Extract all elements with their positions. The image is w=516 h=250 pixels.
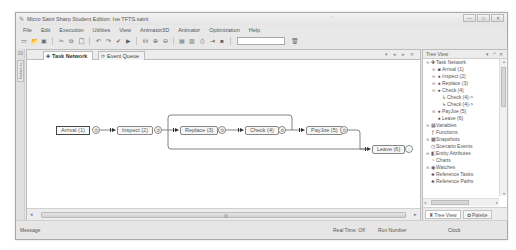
tree-item-label: Watches: [436, 164, 455, 170]
tree-item-payjoe[interactable]: ⊞●PayJoe (5): [423, 108, 499, 115]
pin-icon[interactable]: ⊡: [16, 49, 24, 57]
layout-icon[interactable]: ▥: [188, 37, 196, 45]
trash-icon[interactable]: 🗑: [291, 37, 299, 45]
tab-label: Task Network: [52, 53, 87, 59]
tree-item-reference-tasks[interactable]: ♣Reference Tasks: [423, 171, 499, 178]
tree-item-label: Snapshots: [436, 136, 460, 142]
tree-horizontal-scrollbar[interactable]: ◂ ▸: [423, 198, 499, 206]
grid-icon[interactable]: ▤: [178, 37, 186, 45]
maximize-button[interactable]: □: [477, 14, 490, 22]
canvas-horizontal-scrollbar[interactable]: ◂ ▥ ▸: [27, 208, 420, 220]
new-icon[interactable]: ▭: [20, 37, 28, 45]
tree-view-title: Tree View: [426, 51, 448, 57]
tree-item-label: Task Network: [436, 59, 466, 65]
close-button[interactable]: ✕: [491, 14, 504, 22]
minimize-button[interactable]: —: [463, 14, 476, 22]
tab-event-queue[interactable]: ⟳ Event Queue: [98, 51, 145, 60]
tree-item-charts[interactable]: ◔Charts: [423, 157, 499, 164]
tree-item-replace[interactable]: ⊞●Replace (3): [423, 80, 499, 87]
tree-item-leave[interactable]: ●Leave (6): [423, 115, 499, 122]
toolbar-separator: [136, 37, 137, 45]
tree-item-check-path-2[interactable]: ↳Check (4)->: [423, 101, 499, 108]
zoom-in-icon[interactable]: ⊕: [151, 37, 159, 45]
paste-icon[interactable]: 📋: [77, 37, 85, 45]
tree-item-arrival[interactable]: ⊞■Arrival (1): [423, 66, 499, 73]
tree-item-watches[interactable]: ⊞◉Watches: [423, 164, 499, 171]
tree-item-label: Reference Tasks: [436, 171, 473, 177]
node-arrival[interactable]: Arrival (1): [56, 126, 90, 135]
save-icon[interactable]: ▣: [40, 37, 48, 45]
node-leave-end-icon: ○: [405, 145, 413, 153]
tab-label: Palette: [472, 212, 488, 218]
tree-item-entity-attributes[interactable]: ⊞◧Entity Attributes: [423, 150, 499, 157]
menu-edit[interactable]: Edit: [41, 27, 50, 33]
scroll-right-icon[interactable]: ▸: [414, 211, 417, 217]
tree-item-label: Entity Attributes: [436, 150, 471, 156]
tree-hscroll-thumb[interactable]: [431, 200, 469, 205]
zoom-out-icon[interactable]: ⊖: [161, 37, 169, 45]
title-bar: ✎ Micro Saint Sharp Student Edition: Ive…: [16, 13, 507, 25]
tree-item-snapshots[interactable]: ⊞▩Snapshots: [423, 136, 499, 143]
menu-utilities[interactable]: Utilities: [93, 27, 111, 33]
scroll-right-icon[interactable]: ▸: [496, 199, 498, 206]
tree-item-label: Arrival (1): [442, 66, 464, 72]
app-icon: ✎: [19, 16, 25, 22]
play-icon[interactable]: ▶: [124, 37, 132, 45]
tab-tree-view[interactable]: ♜ Tree View: [425, 210, 461, 219]
menu-help[interactable]: Help: [249, 27, 260, 33]
menu-animator3d[interactable]: Animator3D: [140, 27, 169, 33]
status-clock: Clock: [448, 227, 461, 233]
copy-icon[interactable]: ⧉: [67, 37, 75, 45]
tree-item-label: Check (4)->: [447, 94, 473, 100]
menu-file[interactable]: File: [23, 27, 32, 33]
tree-item-label: Variables: [436, 122, 456, 128]
menu-optimization[interactable]: Optimization: [209, 27, 240, 33]
node-inspect[interactable]: Inspect (2): [117, 126, 153, 135]
toolbar-search-input[interactable]: [237, 37, 285, 45]
tree-item-scenario-events[interactable]: ◷Scenario Events: [423, 143, 499, 150]
tree-item-check-path-1[interactable]: ↳Check (4)->: [423, 94, 499, 101]
menu-view[interactable]: View: [119, 27, 131, 33]
menu-animator[interactable]: Animator: [178, 27, 200, 33]
check-icon[interactable]: ✔: [114, 37, 122, 45]
tree-vertical-scrollbar[interactable]: ▴ ▾: [499, 59, 507, 196]
node-leave[interactable]: Leave (6): [372, 145, 405, 154]
redo-icon[interactable]: ↷: [104, 37, 112, 45]
document-tab-controls[interactable]: ▾ ◂ ▸ ✕: [385, 51, 416, 57]
export-icon[interactable]: ⇥: [208, 37, 216, 45]
print-icon[interactable]: ⎙: [198, 37, 206, 45]
tree-item-variables[interactable]: ⊞▦Variables: [423, 122, 499, 129]
tree-view-controls[interactable]: ▾ ꟸ ✕: [486, 50, 504, 59]
networks-side-tab[interactable]: Networks: [17, 60, 24, 82]
title-mark: ': [331, 15, 332, 21]
scroll-thumb[interactable]: ▥: [41, 212, 406, 218]
tree-item-functions[interactable]: ƒFunctions: [423, 129, 499, 136]
task-network-canvas[interactable]: Arrival (1) ⚙ Inspect (2) ⚙ Replace (3) …: [27, 60, 420, 208]
cut-icon[interactable]: ✂: [57, 37, 65, 45]
scroll-down-icon[interactable]: ▾: [500, 191, 507, 196]
tree-item-task-network[interactable]: ⊟✤Task Network: [423, 59, 499, 66]
tree-item-label: Leave (6): [442, 115, 463, 121]
tree-item-inspect[interactable]: ⊞●Inspect (2): [423, 73, 499, 80]
node-check-end-icon: ⚙: [278, 126, 286, 134]
tree-scroll-thumb[interactable]: [501, 67, 506, 107]
undo-icon[interactable]: ↶: [94, 37, 102, 45]
window-controls: — □ ✕: [463, 14, 504, 22]
tree-view-panel: Tree View ▾ ꟸ ✕ ⊟✤Task Network ⊞■Arrival…: [422, 49, 508, 221]
open-icon[interactable]: 📂: [30, 37, 38, 45]
scroll-left-icon[interactable]: ◂: [424, 199, 426, 206]
find-icon[interactable]: ⛁: [141, 37, 149, 45]
node-payjoe[interactable]: PayJoe (5): [306, 126, 343, 135]
node-check[interactable]: Check (4): [245, 126, 279, 135]
stop-icon[interactable]: ■: [218, 37, 226, 45]
node-payjoe-end-icon: ⚙: [340, 126, 348, 134]
tab-palette[interactable]: ✿ Palette: [463, 210, 492, 219]
tree-item-check[interactable]: ⊟●Check (4): [423, 87, 499, 94]
palette-tab-icon: ✿: [467, 212, 471, 218]
scroll-up-icon[interactable]: ▴: [500, 59, 507, 64]
scroll-left-icon[interactable]: ◂: [30, 211, 33, 217]
node-replace-end-icon: ⚙: [218, 126, 226, 134]
menu-execution[interactable]: Execution: [59, 27, 83, 33]
tree-item-reference-paths[interactable]: ♣Reference Paths: [423, 178, 499, 185]
node-replace[interactable]: Replace (3): [180, 126, 218, 135]
